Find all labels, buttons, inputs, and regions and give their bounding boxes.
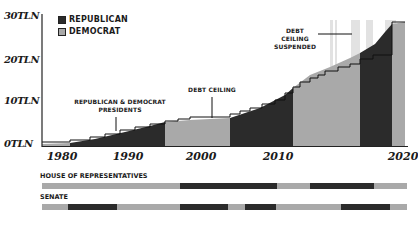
x-tick-1980: 1980 (47, 150, 78, 163)
annotation-line: SUSPENDED (272, 43, 318, 51)
x-tick-2010: 2010 (263, 150, 294, 163)
annotation-presidents: REPUBLICAN & DEMOCRAT PRESIDENTS (74, 98, 166, 114)
annotation-suspended: DEBT CEILING SUSPENDED (272, 27, 318, 51)
senate-title: SENATE (40, 193, 68, 201)
annotation-line: DEBT CEILING (272, 27, 318, 43)
x-tick-2020: 2020 (388, 150, 418, 163)
annotation-line: REPUBLICAN & DEMOCRAT (74, 98, 166, 106)
x-tick-2000: 2000 (186, 150, 217, 163)
house-control-bar (42, 183, 407, 189)
house-title: HOUSE OF REPRESENTATIVES (40, 172, 148, 180)
presidency-areas (42, 0, 405, 146)
annotation-debt-ceiling: DEBT CEILING (186, 86, 238, 94)
x-tick-1990: 1990 (113, 150, 144, 163)
annotation-line: PRESIDENTS (74, 106, 166, 114)
senate-control-bar (42, 204, 407, 210)
